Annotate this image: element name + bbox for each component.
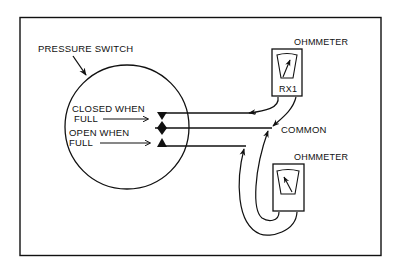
ohmmeter-top-label: OHMMETER [294, 37, 348, 47]
switch-contacts [157, 112, 167, 147]
ohmmeter-bottom: OHMMETER [273, 152, 348, 211]
ohmmeter-top-lead-to-common-wire [273, 97, 296, 126]
open-when-full-label-line2: FULL [69, 137, 93, 148]
closed-when-full-label-line2: FULL [74, 113, 98, 124]
pressure-switch-label: PRESSURE SWITCH [38, 43, 133, 54]
ohmmeter-bottom-label: OHMMETER [294, 152, 348, 162]
common-label: COMMON [281, 124, 327, 135]
ohmmeter-top-lead-to-closed-wire [249, 97, 278, 113]
ohmmeter-top-range-label: RX1 [279, 84, 297, 94]
pressure-switch-pointer-arrow [73, 56, 86, 75]
ohmmeter-top: OHMMETER RX1 [272, 37, 348, 96]
pressure-switch-diagram: PRESSURE SWITCH CLOSED WHEN FULL OPEN WH… [0, 0, 400, 273]
